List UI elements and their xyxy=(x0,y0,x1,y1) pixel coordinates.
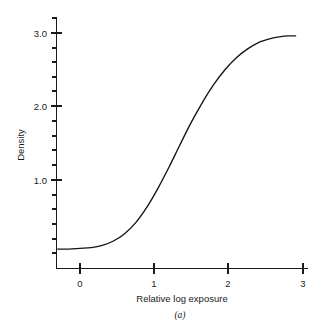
y-tick-label-1: 1.0 xyxy=(34,175,47,186)
y-axis-title: Density xyxy=(15,129,26,161)
axis-lines xyxy=(56,17,308,269)
x-tick-label-3: 3 xyxy=(300,278,305,289)
x-tick-label-2: 2 xyxy=(225,278,230,289)
y-tick-label-2: 2.0 xyxy=(34,101,47,112)
x-tick-label-1: 1 xyxy=(151,278,156,289)
figure-container: 3.0 2.0 1.0 0 1 2 3 Relative log exposur… xyxy=(0,0,324,327)
y-tick-labels: 3.0 2.0 1.0 xyxy=(34,28,47,186)
x-axis-title: Relative log exposure xyxy=(136,293,227,304)
figure-caption: (a) xyxy=(174,310,185,321)
density-curve xyxy=(58,36,296,249)
y-tick-label-3: 3.0 xyxy=(34,28,47,39)
x-tick-label-0: 0 xyxy=(77,278,82,289)
curve-group xyxy=(58,36,296,249)
characteristic-curve-chart: 3.0 2.0 1.0 0 1 2 3 Relative log exposur… xyxy=(0,0,324,327)
x-tick-labels: 0 1 2 3 xyxy=(77,278,305,289)
